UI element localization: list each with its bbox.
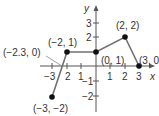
- intercept-leader-line: [46, 56, 62, 66]
- x-tick-label: 2: [65, 71, 71, 82]
- y-tick-label: 2: [86, 32, 92, 43]
- y-axis-label: y: [83, 3, 90, 14]
- point-m3-m2: [49, 94, 55, 100]
- point-2-2: [122, 34, 128, 40]
- tick-labels: −3 2 1 1 2 3 x 3 2 −1 −2 y: [44, 3, 156, 102]
- chart: −3 2 1 1 2 3 x 3 2 −1 −2 y (−3, −2) (−2,…: [0, 0, 159, 116]
- label-point-3-0: (3, 0): [139, 55, 159, 66]
- label-intercept: (−2.3, 0): [3, 47, 41, 58]
- x-tick-label: 1: [107, 71, 113, 82]
- y-tick-label: −2: [82, 91, 94, 102]
- point-0-1: [93, 49, 99, 55]
- label-point-m3-m2: (−3, −2): [33, 103, 68, 114]
- x-tick-label: −3: [44, 71, 56, 82]
- y-tick-label: −1: [82, 76, 94, 87]
- label-point-2-2: (2, 2): [116, 20, 139, 31]
- y-tick-label: 3: [86, 18, 92, 29]
- y-axis-arrow-icon: [94, 5, 99, 11]
- x-tick-label: 3: [136, 71, 142, 82]
- x-tick-label: 2: [122, 71, 128, 82]
- label-point-m2-1: (−2, 1): [48, 37, 77, 48]
- label-point-0-1: (0, 1): [101, 55, 124, 66]
- x-axis-label: x: [149, 71, 156, 82]
- point-m2-1: [64, 49, 70, 55]
